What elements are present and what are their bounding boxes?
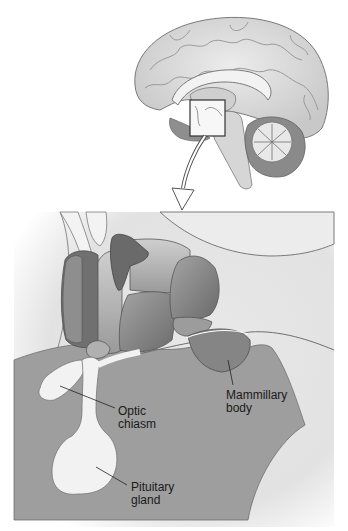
label-optic-chiasm: Optic chiasm xyxy=(118,405,156,431)
cerebellum xyxy=(245,117,305,177)
label-pituitary-gland: Pituitary gland xyxy=(131,481,174,507)
detail-view xyxy=(14,212,334,527)
brain-overview xyxy=(135,17,328,210)
inset-box xyxy=(190,100,225,136)
zoom-arrow-icon xyxy=(172,136,205,210)
label-mammillary-body: Mammillary body xyxy=(226,389,287,415)
brain-hypothalamus-diagram xyxy=(0,0,348,531)
